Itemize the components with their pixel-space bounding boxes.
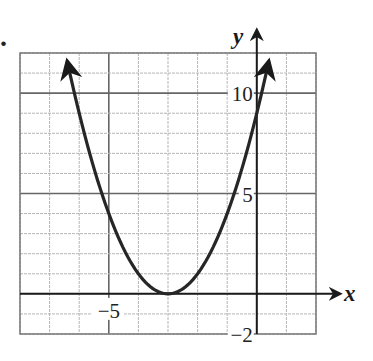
axes — [20, 30, 340, 334]
problem-marker: . — [0, 21, 7, 52]
y-tick-label: −2 — [230, 323, 252, 347]
y-axis-label: y — [230, 24, 244, 49]
x-axis-label: x — [343, 281, 356, 306]
parabola-graph: . −5105−2 y x — [0, 0, 373, 361]
y-tick-label: 10 — [232, 82, 253, 106]
tick-labels: −5105−2 — [92, 82, 254, 347]
y-tick-label: 5 — [242, 183, 253, 207]
grid — [20, 53, 316, 334]
x-tick-label: −5 — [98, 299, 120, 323]
